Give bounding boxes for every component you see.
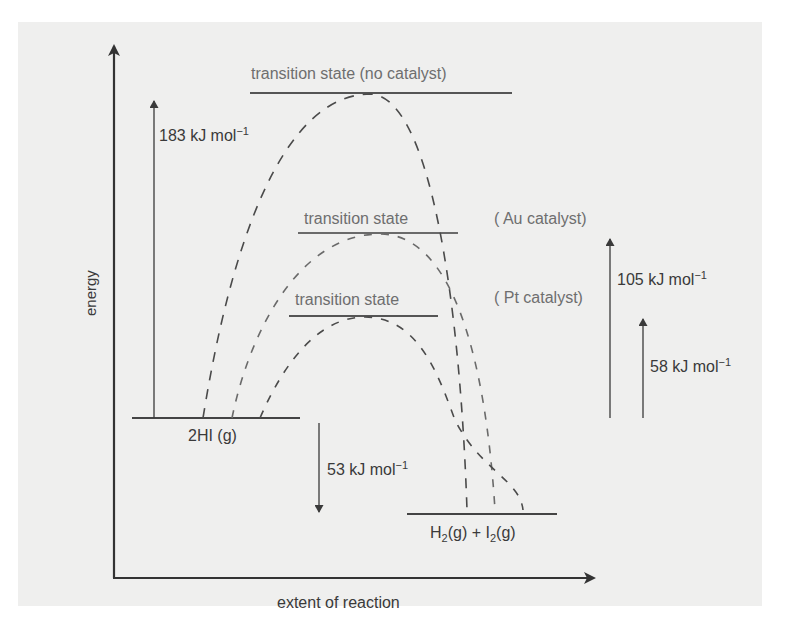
x-axis-label: extent of reaction <box>277 595 400 611</box>
value-58-text: 58 kJ mol <box>650 358 718 375</box>
product-middle: (g) + I <box>448 524 490 541</box>
y-axis-label: energy <box>83 270 98 316</box>
au-catalyst-label: ( Au catalyst) <box>494 211 586 227</box>
product-end: (g) <box>496 524 516 541</box>
value-183-text: 183 kJ mol <box>159 127 236 144</box>
value-183-label: 183 kJ mol−1 <box>159 128 249 144</box>
value-183-exp: −1 <box>236 125 249 137</box>
product-i-sub: 2 <box>490 532 496 544</box>
value-58-label: 58 kJ mol−1 <box>650 359 731 375</box>
ts-pt-label: transition state <box>295 292 399 308</box>
reactant-formula: 2HI <box>188 427 213 444</box>
ts-no-catalyst-label: transition state (no catalyst) <box>251 66 447 82</box>
product-h: H <box>430 524 442 541</box>
reactant-state: (g) <box>213 427 237 444</box>
value-105-exp: −1 <box>694 269 707 281</box>
product-label: H2(g) + I2(g) <box>430 525 516 541</box>
value-105-text: 105 kJ mol <box>617 271 694 288</box>
product-h-sub: 2 <box>442 532 448 544</box>
curve-pt-catalyst <box>260 317 523 510</box>
value-53-exp: −1 <box>395 459 408 471</box>
value-53-label: 53 kJ mol−1 <box>327 462 408 478</box>
energy-profile-diagram <box>0 0 808 636</box>
value-53-text: 53 kJ mol <box>327 461 395 478</box>
ts-au-label: transition state <box>304 211 408 227</box>
reactant-label: 2HI (g) <box>188 428 237 444</box>
value-105-label: 105 kJ mol−1 <box>617 272 707 288</box>
pt-catalyst-label: ( Pt catalyst) <box>494 290 583 306</box>
value-58-exp: −1 <box>718 356 731 368</box>
